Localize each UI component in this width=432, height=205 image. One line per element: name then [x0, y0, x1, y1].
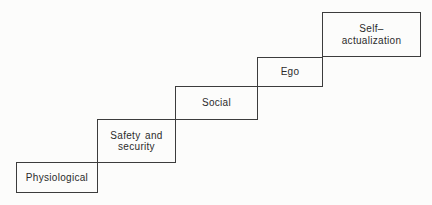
needs-hierarchy-staircase-diagram: Physiological Safety and security Social…: [0, 0, 432, 205]
step-safety-and-security: Safety and security: [97, 119, 176, 163]
step-physiological-label: Physiological: [26, 172, 88, 184]
step-social-label: Social: [202, 97, 231, 109]
step-social: Social: [175, 86, 258, 120]
step-safety-and-security-label: Safety and security: [110, 130, 162, 153]
step-physiological: Physiological: [16, 162, 98, 193]
step-self-actualization: Self– actualization: [322, 12, 421, 57]
step-ego: Ego: [257, 57, 323, 87]
step-ego-label: Ego: [281, 66, 300, 78]
step-self-actualization-label: Self– actualization: [342, 23, 402, 46]
